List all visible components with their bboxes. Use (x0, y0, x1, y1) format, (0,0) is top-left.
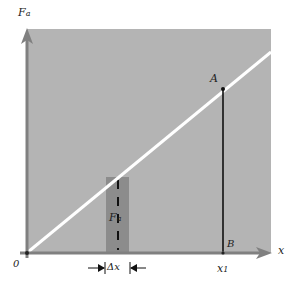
delta-arrow-left-icon (98, 264, 105, 272)
delta-x-label: Δx (107, 261, 120, 272)
point-a-dot (221, 87, 225, 91)
origin-label: 0 (13, 258, 19, 269)
bar-label: Fa (109, 211, 121, 224)
point-a-label: A (210, 72, 218, 85)
origin-dot (25, 251, 29, 255)
point-b-label: B (227, 238, 234, 249)
delta-arrow-right-icon (130, 264, 137, 272)
plot-area (27, 29, 271, 253)
work-diagram (0, 0, 298, 283)
x-axis-label: x (278, 244, 284, 257)
y-axis-label: Fa (18, 6, 30, 19)
point-b-dot (221, 251, 224, 254)
x1-label: x1 (217, 262, 228, 275)
